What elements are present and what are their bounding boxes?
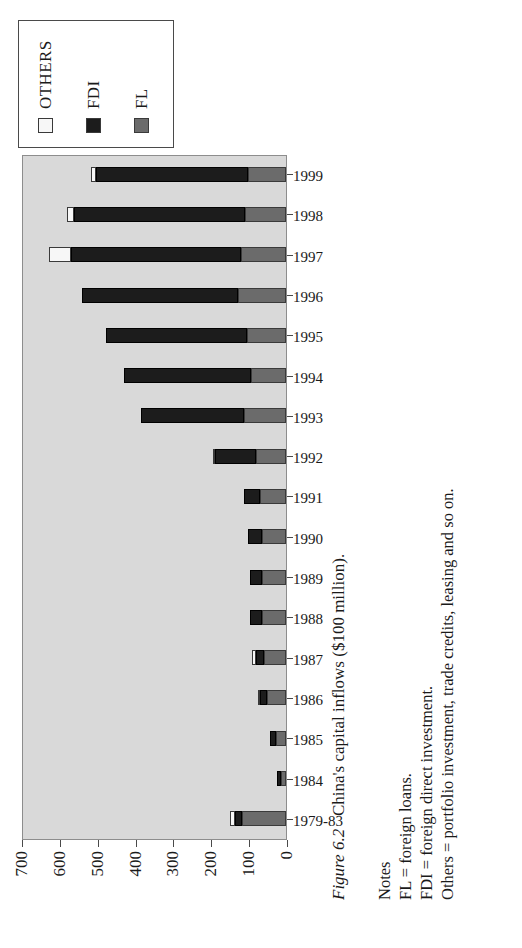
bar-segment-fdi [270,731,276,746]
category-label: 1994 [293,371,323,386]
legend-entry-fl: FL [133,88,150,133]
y-tick-label: 500 [89,851,106,877]
bar-segment-fdi [106,328,247,343]
bar-segment-fl [245,207,286,222]
bar-segment-fdi [250,610,262,625]
bar-segment-fdi [74,207,245,222]
bar-segment-fl [262,529,286,544]
category-label: 1984 [293,774,323,789]
bar-segment-others [49,247,70,262]
bar-segment-fl [238,288,286,303]
bar-segment-fl [242,811,286,826]
category-label: 1997 [293,250,323,265]
value-axis: 0 100 200 300 400 500 600 700 [22,840,287,900]
bar-segment-fl [244,408,286,423]
category-label: 1986 [293,693,323,708]
legend: OTHERS FDI FL [18,20,174,148]
y-tick-label: 300 [164,851,181,877]
bar-series-container [23,156,286,839]
bar-segment-others [258,690,260,705]
figure-caption-text: China's capital inflows ($100 million). [329,554,348,816]
rotated-page: 0 100 200 300 400 500 600 700 1979-83198… [0,0,522,948]
bar-segment-fl [262,610,286,625]
bar-segment-fdi [250,570,263,585]
bar-segment-others [213,449,215,464]
fdi-swatch-icon [86,118,101,133]
note-line: Others = portfolio investment, trade cre… [437,488,458,900]
category-label: 1989 [293,572,323,587]
y-tick-label: 200 [202,851,219,877]
legend-entry-fdi: FDI [85,80,102,133]
bar-segment-fdi [277,771,282,786]
category-label: 1990 [293,532,323,547]
legend-entry-others: OTHERS [37,40,54,133]
bar-segment-fl [256,449,286,464]
bar-segment-fdi [256,650,265,665]
bar-segment-fl [251,368,286,383]
category-label: 1987 [293,653,323,668]
category-label: 1992 [293,451,323,466]
bar-segment-fl [247,328,286,343]
notes-block: Notes FL = foreign loans. FDI = foreign … [374,488,458,900]
y-tick-label: 600 [51,851,68,877]
bar-segment-fdi [141,408,244,423]
category-label: 1995 [293,330,323,345]
bar-segment-fdi [260,690,267,705]
y-tick-label: 700 [13,851,30,877]
bar-segment-fl [260,489,286,504]
chart-figure: 0 100 200 300 400 500 600 700 1979-83198… [12,155,302,900]
legend-label: OTHERS [37,40,54,109]
note-line: FDI = foreign direct investment. [416,488,437,900]
figure-caption: Figure 6.2 China's capital inflows ($100… [330,554,347,900]
bar-segment-others [252,650,255,665]
bar-segment-others [67,207,74,222]
bar-segment-fdi [235,811,242,826]
bar-segment-fl [267,690,286,705]
bar-segment-fl [276,731,286,746]
category-label: 1985 [293,733,323,748]
bar-segment-fdi [215,449,256,464]
note-line: FL = foreign loans. [395,488,416,900]
category-label: 1998 [293,209,323,224]
notes-heading: Notes [374,488,395,900]
plot-area [22,155,287,840]
bar-segment-fl [262,570,286,585]
bar-segment-fl [241,247,286,262]
bar-segment-fl [248,167,286,182]
bar-segment-fdi [71,247,241,262]
y-tick-label: 100 [240,851,257,877]
bar-segment-fl [281,771,286,786]
bar-segment-fdi [248,529,261,544]
category-label: 1991 [293,492,323,507]
y-tick-label: 400 [127,851,144,877]
figure-label: Figure 6.2 [329,829,348,900]
bar-segment-fdi [244,489,261,504]
bar-segment-fl [264,650,286,665]
legend-label: FDI [85,80,102,109]
bar-segment-fdi [96,167,248,182]
fl-swatch-icon [134,118,149,133]
bar-segment-others [91,167,96,182]
legend-label: FL [133,88,150,109]
bar-segment-fdi [82,288,239,303]
category-label: 1993 [293,411,323,426]
y-tick-label: 0 [278,851,295,860]
others-swatch-icon [38,118,53,133]
bar-segment-fdi [124,368,251,383]
category-label: 1996 [293,290,323,305]
category-label: 1999 [293,169,323,184]
category-label: 1988 [293,612,323,627]
bar-segment-others [230,811,235,826]
